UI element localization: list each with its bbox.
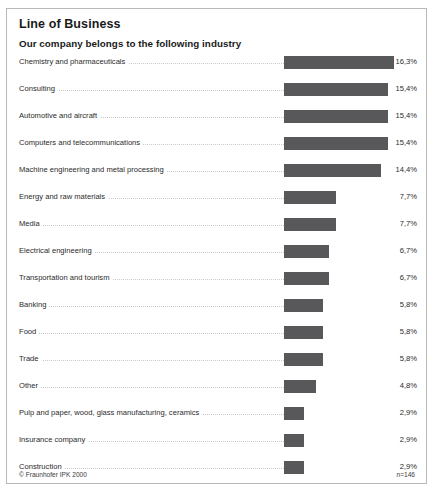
category-label: Media: [19, 219, 43, 228]
bar: [284, 245, 329, 258]
value-label: 15,4%: [337, 111, 417, 120]
value-label: 7,7%: [337, 192, 417, 201]
bar: [284, 434, 304, 447]
value-label: 5,8%: [337, 327, 417, 336]
category-label: Insurance company: [19, 435, 88, 444]
leader-line: [19, 333, 284, 335]
chart-row: Automotive and aircraft15,4%: [7, 108, 426, 135]
value-label: 4,8%: [337, 381, 417, 390]
value-label: 2,9%: [337, 435, 417, 444]
bar-chart-plot: Chemistry and pharmaceuticals16,3%Consul…: [7, 54, 426, 482]
leader-line: [19, 90, 284, 92]
leader-line: [19, 387, 284, 389]
category-label: Computers and telecommunications: [19, 138, 143, 147]
chart-row: Trade5,8%: [7, 351, 426, 378]
category-label: Pulp and paper, wood, glass manufacturin…: [19, 408, 202, 417]
bar: [284, 380, 316, 393]
chart-row: Transportation and tourism6,7%: [7, 270, 426, 297]
sample-size-note: n=146: [396, 471, 415, 478]
chart-row: Energy and raw materials7,7%: [7, 189, 426, 216]
value-label: 5,8%: [337, 354, 417, 363]
value-label: 7,7%: [337, 219, 417, 228]
bar: [284, 218, 336, 231]
category-label: Construction: [19, 462, 65, 471]
category-label: Machine engineering and metal processing: [19, 165, 167, 174]
bar: [284, 272, 329, 285]
category-label: Consulting: [19, 84, 58, 93]
chart-row: Banking5,8%: [7, 297, 426, 324]
copyright-notice: © Fraunhofer IPK 2000: [19, 471, 87, 478]
chart-panel: Line of Business Our company belongs to …: [6, 8, 427, 484]
chart-row: Machine engineering and metal processing…: [7, 162, 426, 189]
bar: [284, 353, 323, 366]
value-label: 14,4%: [337, 165, 417, 174]
leader-line: [19, 306, 284, 308]
category-label: Banking: [19, 300, 49, 309]
category-label: Energy and raw materials: [19, 192, 108, 201]
category-label: Electrical engineering: [19, 246, 95, 255]
category-label: Other: [19, 381, 41, 390]
category-label: Automotive and aircraft: [19, 111, 100, 120]
chart-row: Electrical engineering6,7%: [7, 243, 426, 270]
leader-line: [19, 225, 284, 227]
category-label: Trade: [19, 354, 42, 363]
value-label: 2,9%: [337, 462, 417, 471]
value-label: 5,8%: [337, 300, 417, 309]
value-label: 15,4%: [337, 84, 417, 93]
bar: [284, 326, 323, 339]
value-label: 2,9%: [337, 408, 417, 417]
chart-row: Pulp and paper, wood, glass manufacturin…: [7, 405, 426, 432]
category-label: Food: [19, 327, 39, 336]
bar: [284, 299, 323, 312]
chart-row: Media7,7%: [7, 216, 426, 243]
leader-line: [19, 360, 284, 362]
chart-row: Other4,8%: [7, 378, 426, 405]
bar: [284, 461, 304, 474]
bar: [284, 191, 336, 204]
chart-row: Consulting15,4%: [7, 81, 426, 108]
bar: [284, 407, 304, 420]
category-label: Chemistry and pharmaceuticals: [19, 57, 128, 66]
value-label: 15,4%: [337, 138, 417, 147]
chart-row: Insurance company2,9%: [7, 432, 426, 459]
chart-row: Food5,8%: [7, 324, 426, 351]
chart-row: Computers and telecommunications15,4%: [7, 135, 426, 162]
page-title: Line of Business: [19, 17, 121, 31]
value-label: 6,7%: [337, 246, 417, 255]
category-label: Transportation and tourism: [19, 273, 112, 282]
value-label: 16,3%: [337, 57, 417, 66]
value-label: 6,7%: [337, 273, 417, 282]
chart-row: Chemistry and pharmaceuticals16,3%: [7, 54, 426, 81]
chart-subtitle: Our company belongs to the following ind…: [19, 38, 241, 49]
